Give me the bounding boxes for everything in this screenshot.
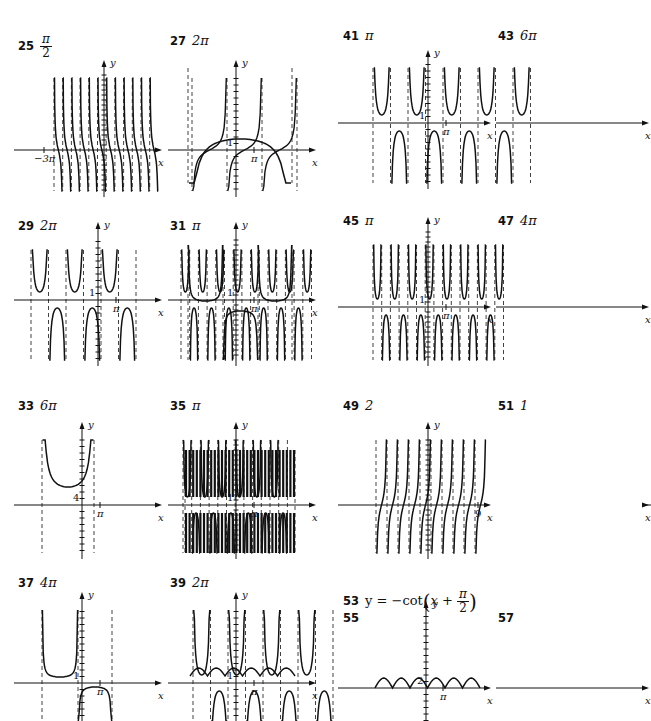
graph-55: yx2π xyxy=(338,613,493,721)
equation-variable: x + xyxy=(431,593,458,608)
svg-text:4: 4 xyxy=(73,492,79,503)
paren-right: ) xyxy=(469,590,477,614)
graph-29: yx1π xyxy=(14,250,164,360)
graph-37: yx1π xyxy=(14,600,164,721)
svg-text:y: y xyxy=(241,57,248,68)
svg-text:x: x xyxy=(312,307,318,318)
problem-number: 51 xyxy=(498,399,514,413)
svg-text:x: x xyxy=(645,695,651,706)
answer-value: π xyxy=(192,218,201,233)
graph-47: yx1π xyxy=(496,245,651,360)
answer-label-25: 25π2 xyxy=(18,33,52,60)
answer-label-47: 474π xyxy=(498,213,537,228)
fraction-denominator: 2 xyxy=(457,602,469,615)
answer-value: 6π xyxy=(520,28,537,43)
graph-31: yx1π xyxy=(168,250,318,360)
svg-text:x: x xyxy=(487,695,493,706)
graph-45: yx1π xyxy=(338,245,493,360)
equation-fraction: π2 xyxy=(457,588,469,615)
answer-value: 4π xyxy=(520,213,537,228)
svg-text:−3π: −3π xyxy=(34,153,56,164)
answer-fraction: π2 xyxy=(40,33,52,60)
svg-text:x: x xyxy=(312,157,318,168)
svg-text:x: x xyxy=(158,157,164,168)
answer-label-53: 53y = −cot(x + π2) xyxy=(343,588,477,615)
answer-value: 4π xyxy=(40,575,57,590)
svg-text:x: x xyxy=(487,130,493,141)
svg-text:y: y xyxy=(241,589,248,600)
svg-text:y: y xyxy=(433,47,440,58)
svg-text:x: x xyxy=(645,130,651,141)
svg-text:1: 1 xyxy=(89,287,95,298)
answer-value: 1 xyxy=(520,398,528,413)
svg-text:π: π xyxy=(442,126,450,137)
svg-text:π: π xyxy=(250,153,258,164)
svg-text:x: x xyxy=(645,314,651,325)
answer-label-51: 511 xyxy=(498,398,528,413)
answer-label-41: 41π xyxy=(343,28,374,43)
problem-number: 45 xyxy=(343,214,359,228)
svg-text:π: π xyxy=(96,686,104,697)
answer-label-31: 31π xyxy=(170,218,201,233)
answer-value: 2π xyxy=(192,33,209,48)
svg-text:y: y xyxy=(241,219,248,230)
graph-25: yx−3π xyxy=(14,65,164,205)
svg-text:y: y xyxy=(433,214,440,225)
fraction-numerator: π xyxy=(457,588,469,602)
svg-text:x: x xyxy=(158,307,164,318)
answer-value: 2π xyxy=(192,575,209,590)
svg-text:x: x xyxy=(645,512,651,523)
fraction-denominator: 2 xyxy=(40,47,52,60)
svg-text:π: π xyxy=(442,310,450,321)
answer-value: 2π xyxy=(40,218,57,233)
graph-27: yx1π xyxy=(168,65,318,205)
svg-text:x: x xyxy=(158,512,164,523)
answer-value: π xyxy=(192,398,201,413)
problem-number: 47 xyxy=(498,214,514,228)
fraction-numerator: π xyxy=(40,33,52,47)
graph-43: yx1π xyxy=(496,58,651,198)
problem-number: 33 xyxy=(18,399,34,413)
answer-label-43: 436π xyxy=(498,28,537,43)
problem-number: 41 xyxy=(343,29,359,43)
answer-value: 2 xyxy=(365,398,373,413)
problem-number: 31 xyxy=(170,219,186,233)
problem-number: 39 xyxy=(170,576,186,590)
svg-text:x: x xyxy=(158,690,164,701)
answer-label-39: 392π xyxy=(170,575,209,590)
svg-text:y: y xyxy=(87,589,94,600)
svg-text:x: x xyxy=(312,512,318,523)
svg-text:x: x xyxy=(487,512,493,523)
svg-text:2: 2 xyxy=(417,675,423,686)
svg-text:1: 1 xyxy=(227,287,233,298)
answer-value: π xyxy=(365,213,374,228)
problem-number: 29 xyxy=(18,219,34,233)
graph-41: yx1π xyxy=(338,58,493,198)
svg-text:π: π xyxy=(439,691,447,702)
equation-prefix: y = −cot xyxy=(365,593,423,608)
svg-text:1: 1 xyxy=(419,294,425,305)
problem-number: 53 xyxy=(343,594,359,608)
graph-57: yx1π xyxy=(496,613,651,721)
answer-label-37: 374π xyxy=(18,575,57,590)
answer-label-33: 336π xyxy=(18,398,57,413)
svg-text:y: y xyxy=(433,419,440,430)
svg-text:π: π xyxy=(96,508,104,519)
answer-label-35: 35π xyxy=(170,398,201,413)
problem-number: 25 xyxy=(18,39,34,53)
svg-text:π: π xyxy=(250,303,258,314)
answer-label-27: 272π xyxy=(170,33,209,48)
problem-number: 27 xyxy=(170,34,186,48)
svg-text:1: 1 xyxy=(419,110,425,121)
graph-49: yx9 xyxy=(338,430,493,560)
svg-text:x: x xyxy=(487,314,493,325)
svg-text:y: y xyxy=(103,219,110,230)
graph-33: yx4π xyxy=(14,430,164,560)
svg-text:π: π xyxy=(250,686,258,697)
svg-text:y: y xyxy=(241,419,248,430)
answer-label-29: 292π xyxy=(18,218,57,233)
graph-39: yx1π xyxy=(168,600,318,721)
graph-51: yx11 xyxy=(496,430,651,560)
answer-label-45: 45π xyxy=(343,213,374,228)
problem-number: 37 xyxy=(18,576,34,590)
